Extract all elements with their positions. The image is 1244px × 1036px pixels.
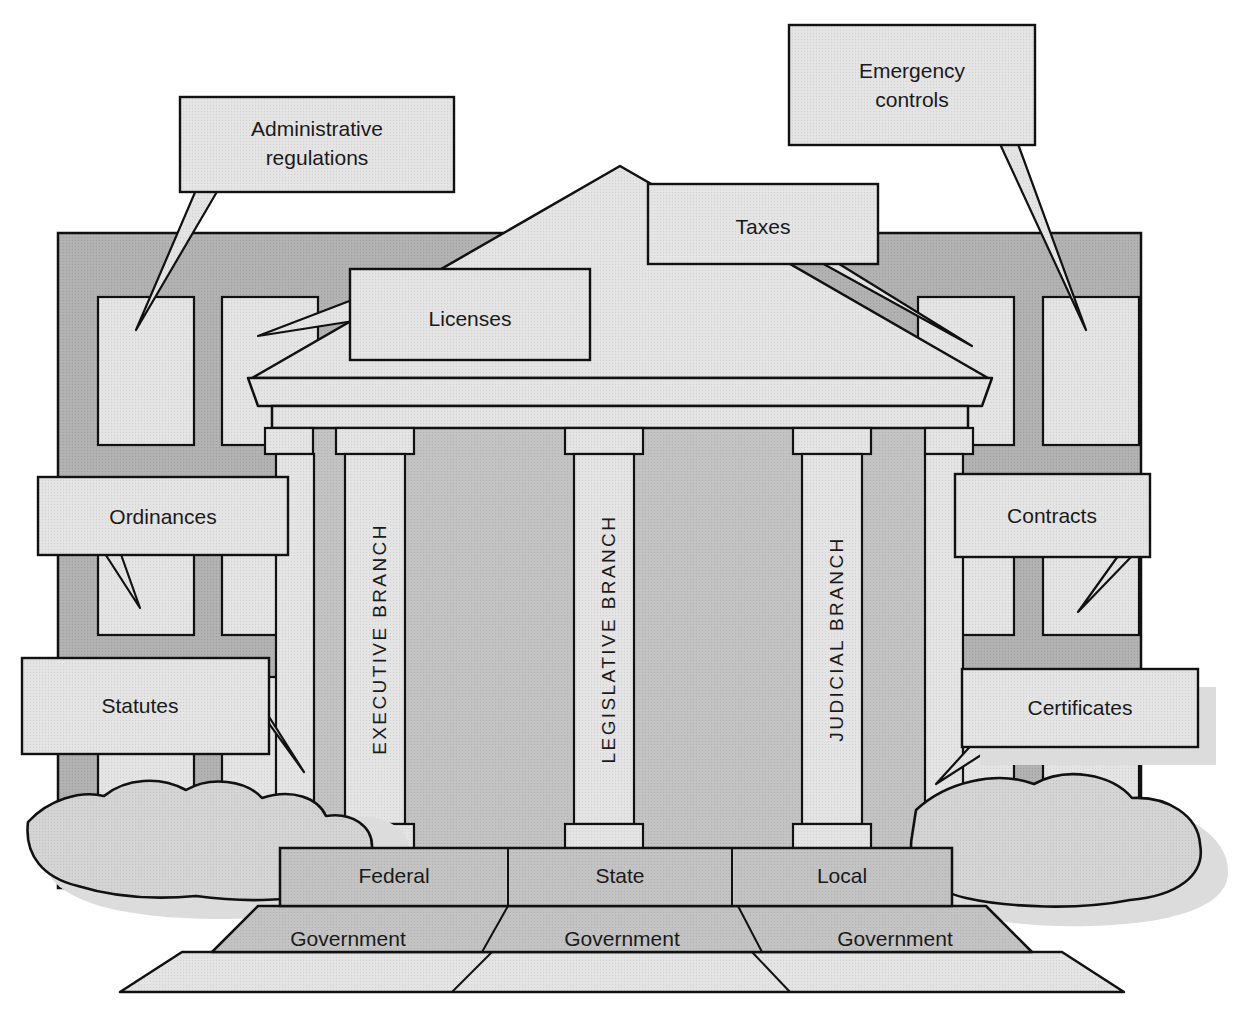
callout-statutes[interactable]: Statutes — [22, 658, 269, 754]
column-legislative: LEGISLATIVE BRANCH — [565, 428, 643, 850]
step-label-federal-government: Government — [290, 927, 406, 950]
diagram-canvas: EXECUTIVE BRANCH LEGISLATIVE BRANCH JUDI… — [0, 0, 1244, 1036]
step-label-state-government: Government — [564, 927, 680, 950]
callout-emergency-controls[interactable]: Emergency controls — [789, 25, 1035, 145]
government-building-diagram: EXECUTIVE BRANCH LEGISLATIVE BRANCH JUDI… — [0, 0, 1244, 1036]
column-label-executive: EXECUTIVE BRANCH — [369, 523, 390, 755]
step-label-state: State — [595, 864, 644, 887]
plinth-base — [120, 952, 1124, 992]
callout-administrative-regulations[interactable]: Administrative regulations — [180, 97, 454, 192]
window — [1043, 297, 1139, 445]
step-label-federal: Federal — [358, 864, 429, 887]
callout-label-taxes: Taxes — [736, 215, 791, 238]
callout-taxes[interactable]: Taxes — [648, 184, 878, 264]
callout-label-administrative-regulations-line2: regulations — [266, 146, 369, 169]
step-label-local: Local — [817, 864, 867, 887]
window — [98, 297, 194, 445]
callout-label-emergency-controls-line2: controls — [875, 88, 949, 111]
callout-label-licenses: Licenses — [429, 307, 512, 330]
column-executive: EXECUTIVE BRANCH — [336, 428, 414, 850]
callout-certificates[interactable]: Certificates — [962, 669, 1216, 765]
column-label-judicial: JUDICIAL BRANCH — [826, 536, 847, 741]
callout-licenses[interactable]: Licenses — [350, 269, 590, 360]
column-judicial: JUDICIAL BRANCH — [793, 428, 871, 850]
callout-label-ordinances: Ordinances — [109, 505, 216, 528]
bush-right — [911, 774, 1201, 906]
callout-label-certificates: Certificates — [1027, 696, 1132, 719]
callout-contracts[interactable]: Contracts — [955, 474, 1150, 557]
callout-label-statutes: Statutes — [101, 694, 178, 717]
callout-label-emergency-controls-line1: Emergency — [859, 59, 966, 82]
column-label-legislative: LEGISLATIVE BRANCH — [598, 515, 619, 764]
callout-label-contracts: Contracts — [1007, 504, 1097, 527]
step-label-local-government: Government — [837, 927, 953, 950]
callout-ordinances[interactable]: Ordinances — [38, 477, 288, 555]
callout-label-administrative-regulations-line1: Administrative — [251, 117, 383, 140]
